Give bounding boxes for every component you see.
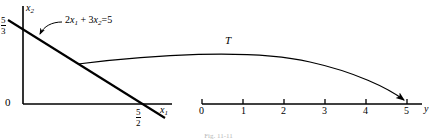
tick-label-4: 4 [363, 106, 368, 116]
tick-label-2: 2 [281, 106, 286, 116]
x-intercept-denominator: 2 [136, 119, 141, 128]
y-intercept-fraction: 5 3 [1, 16, 6, 37]
tick-label-0: 0 [199, 106, 204, 116]
constraint-equation-label: 2x1 + 3x2=5 [65, 15, 112, 27]
tick-label-1: 1 [241, 106, 246, 116]
y-intercept-numerator: 5 [1, 16, 6, 25]
figure-caption: Fig. 11-11 [0, 132, 437, 140]
equation-leader-line [40, 22, 62, 34]
x-intercept-numerator: 5 [136, 108, 141, 117]
right-axis-label: y [424, 104, 428, 114]
left-y-axis-label: x2 [26, 3, 34, 15]
left-x-axis-subscript: 1 [164, 109, 168, 117]
tick-label-5: 5 [404, 106, 409, 116]
curve-label-T: T [225, 35, 231, 46]
x-intercept-fraction: 5 2 [136, 108, 141, 129]
tick-label-3: 3 [322, 106, 327, 116]
left-y-axis-subscript: 2 [30, 7, 34, 15]
left-x-axis-label: x1 [160, 105, 168, 117]
figure-container: 0 x2 x1 5 3 5 2 2x1 + 3x2=5 T 0 1 2 3 4 … [0, 0, 437, 140]
y-intercept-denominator: 3 [1, 27, 6, 36]
left-origin-label: 0 [5, 97, 11, 108]
